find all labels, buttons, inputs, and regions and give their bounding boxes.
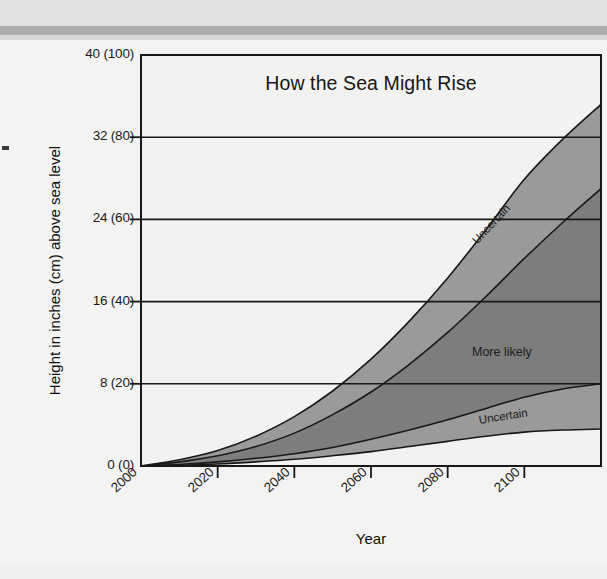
y-tick-label-40: 40 (100) [56,46,134,61]
y-tick-label-text: 8 (20) [56,375,134,390]
figure-page: How the Sea Might Rise Height in inches … [0,0,607,579]
chart-title: How the Sea Might Rise [141,72,601,95]
y-tick-label-24: 24 (60) [56,210,134,225]
y-tick-label-32: 32 (80) [56,128,134,143]
y-tick-label-text: 32 (80) [56,128,134,143]
y-tick-label-text: 40 (100) [56,46,134,61]
y-tick-label-text: 24 (60) [56,210,134,225]
y-tick-label-text: 16 (40) [56,293,134,308]
y-tick-label-8: 8 (20) [56,375,134,390]
x-axis-ticks [218,466,525,478]
y-tick-label-16: 16 (40) [56,293,134,308]
band-label-more-likely: More likely [472,345,532,359]
y-axis-ticks [130,137,141,384]
x-axis-title: Year [141,530,601,547]
